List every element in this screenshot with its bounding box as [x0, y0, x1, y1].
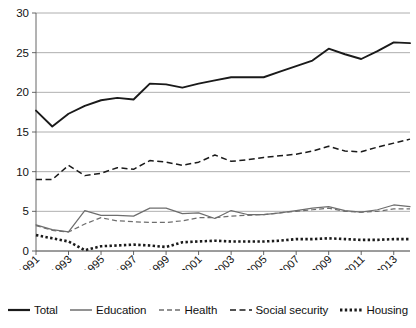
y-axis-tick-label: 15 [16, 126, 29, 138]
y-axis-tick-label: 25 [16, 47, 29, 59]
y-axis-tick-label: 10 [16, 166, 29, 178]
x-axis-tick-label: 2011 [341, 253, 366, 270]
legend-swatch-education [70, 305, 92, 315]
legend-swatch-social-security [230, 305, 252, 315]
series-line-housing [36, 235, 410, 250]
legend-label-social-security: Social security [256, 304, 329, 316]
x-axis-tick-label: 2003 [211, 253, 237, 270]
plot-area: 0510152025301991199319951997199920012003… [0, 0, 416, 270]
legend-item-total[interactable]: Total [8, 304, 58, 316]
x-axis-tick-label: 1993 [48, 253, 74, 270]
legend-label-total: Total [34, 304, 58, 316]
x-axis-tick-label: 2013 [373, 253, 399, 270]
y-axis-tick-label: 30 [16, 7, 29, 19]
legend-item-social-security[interactable]: Social security [230, 304, 329, 316]
legend-swatch-total [8, 305, 30, 315]
legend-swatch-health [159, 305, 181, 315]
x-axis-tick-label: 1999 [146, 253, 172, 270]
chart-svg: 0510152025301991199319951997199920012003… [0, 0, 416, 270]
series-line-education [36, 205, 410, 232]
series-line-social-security [36, 139, 410, 179]
legend-label-education: Education [96, 304, 146, 316]
legend-label-housing: Housing [366, 304, 408, 316]
x-axis-tick-label: 2005 [243, 253, 269, 270]
legend-swatch-housing [340, 305, 362, 315]
legend-item-education[interactable]: Education [70, 304, 146, 316]
legend-label-health: Health [185, 304, 218, 316]
x-axis-tick-label: 2009 [308, 253, 334, 270]
x-axis-tick-label: 1995 [81, 253, 107, 270]
line-chart: 0510152025301991199319951997199920012003… [0, 0, 416, 328]
x-axis-tick-label: 1997 [113, 253, 139, 270]
y-axis-tick-label: 5 [23, 205, 29, 217]
legend-item-health[interactable]: Health [159, 304, 218, 316]
y-axis-tick-label: 20 [16, 86, 29, 98]
y-axis-tick-label: 0 [23, 245, 29, 257]
legend-item-housing[interactable]: Housing [340, 304, 408, 316]
x-axis-tick-label: 2001 [178, 253, 204, 270]
chart-legend: Total Education Health Social security H… [0, 296, 416, 324]
series-line-total [36, 42, 410, 126]
x-axis-tick-label: 2007 [276, 253, 302, 270]
